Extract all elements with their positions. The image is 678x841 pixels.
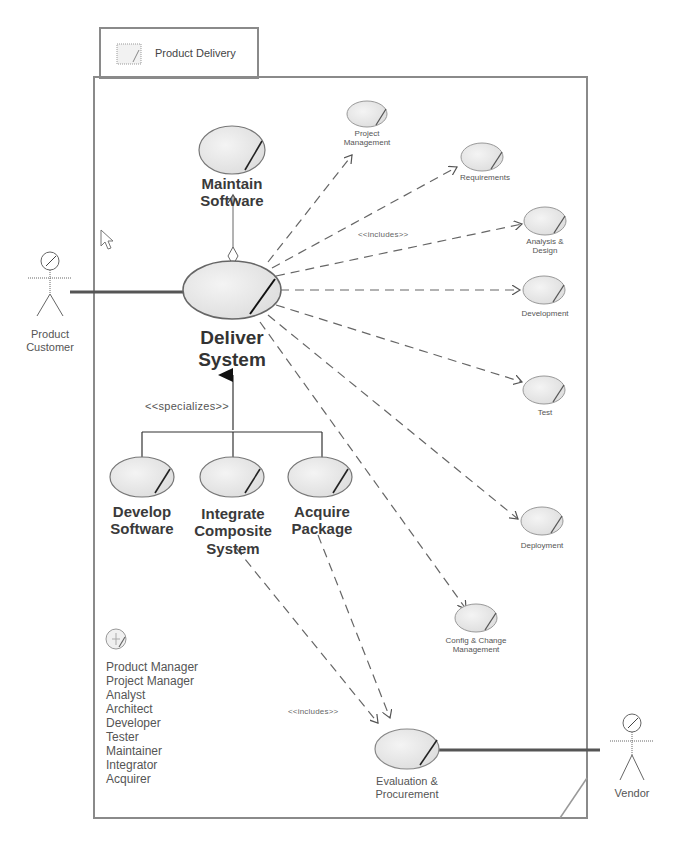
role-item: Product Manager xyxy=(106,660,198,674)
use-case-deployment-icon xyxy=(521,507,563,535)
label-line2: System xyxy=(182,349,282,371)
actor-label: Vendor xyxy=(602,787,662,800)
label-line2: Procurement xyxy=(362,788,452,801)
role-item: Analyst xyxy=(106,688,198,702)
label-line1: Evaluation & xyxy=(362,775,452,788)
role-item: Acquirer xyxy=(106,772,198,786)
use-case-development[interactable]: Development xyxy=(510,309,580,318)
label-line1: Project xyxy=(337,129,397,138)
use-case-acquire-package-icon xyxy=(288,457,352,497)
role-item: Project Manager xyxy=(106,674,198,688)
use-case-integrate-composite-system-icon xyxy=(200,457,264,497)
actor-product-customer[interactable]: Product Customer xyxy=(20,328,80,353)
use-case-evaluation-procurement[interactable]: Evaluation & Procurement xyxy=(362,775,452,800)
label-line2: Software xyxy=(182,192,282,209)
role-item: Integrator xyxy=(106,758,198,772)
use-case-acquire-package[interactable]: Acquire Package xyxy=(282,503,362,538)
use-case-integrate-composite-system[interactable]: Integrate Composite System xyxy=(188,505,278,557)
use-case-requirements[interactable]: Requirements xyxy=(450,173,520,182)
actor-vendor-icon xyxy=(610,714,654,780)
stereotype-includes-top: <<includes>> xyxy=(358,230,408,239)
use-case-analysis-design-icon xyxy=(524,207,566,235)
label-line2: Composite xyxy=(188,522,278,539)
use-case-maintain-software[interactable]: Maintain Software xyxy=(182,175,282,210)
actor-vendor[interactable]: Vendor xyxy=(602,787,662,800)
label-line1: Develop xyxy=(100,503,184,520)
use-case-development-icon xyxy=(523,276,565,304)
label-line1: Analysis & xyxy=(515,237,575,246)
use-case-config-change-management[interactable]: Config & Change Management xyxy=(436,636,516,654)
label-line1: Maintain xyxy=(182,175,282,192)
label-line2: Package xyxy=(282,520,362,537)
label-line1: Deliver xyxy=(182,327,282,349)
label-line1: Requirements xyxy=(450,173,520,182)
use-case-project-management-icon xyxy=(347,101,387,127)
role-item: Developer xyxy=(106,716,198,730)
label-line2: Management xyxy=(337,138,397,147)
use-case-requirements-icon xyxy=(461,143,503,171)
package-title: Product Delivery xyxy=(155,47,236,59)
label-line2: Design xyxy=(515,246,575,255)
label-line1: Development xyxy=(510,309,580,318)
role-item: Maintainer xyxy=(106,744,198,758)
use-case-maintain-software-icon xyxy=(199,126,265,174)
package-folder-icon xyxy=(117,44,141,64)
use-case-analysis-design[interactable]: Analysis & Design xyxy=(515,237,575,255)
stereotype-specializes: <<specializes>> xyxy=(145,400,229,413)
specialization-tree xyxy=(142,375,322,458)
use-case-develop-software[interactable]: Develop Software xyxy=(100,503,184,538)
mouse-cursor-icon xyxy=(101,230,113,249)
use-case-evaluation-procurement-icon xyxy=(375,729,439,769)
use-case-diagram-canvas xyxy=(0,0,678,841)
use-case-test-icon xyxy=(523,376,565,404)
label-line1: Test xyxy=(520,408,570,417)
label-line3: System xyxy=(188,540,278,557)
actor-label-line2: Customer xyxy=(20,341,80,354)
actor-product-customer-icon xyxy=(28,252,72,316)
actor-label-line1: Product xyxy=(20,328,80,341)
label-line2: Software xyxy=(100,520,184,537)
label-line1: Acquire xyxy=(282,503,362,520)
role-item: Architect xyxy=(106,702,198,716)
use-case-deliver-system-icon xyxy=(183,261,281,319)
label-line1: Config & Change xyxy=(436,636,516,645)
label-line2: Management xyxy=(436,645,516,654)
use-case-config-change-icon xyxy=(455,604,497,632)
stereotype-includes-bottom: <<includes>> xyxy=(288,707,338,716)
use-case-project-management[interactable]: Project Management xyxy=(337,129,397,147)
label-line1: Deployment xyxy=(507,541,577,550)
use-case-develop-software-icon xyxy=(110,457,174,497)
roles-list: Product Manager Project Manager Analyst … xyxy=(106,660,198,786)
use-case-test[interactable]: Test xyxy=(520,408,570,417)
use-case-deliver-system[interactable]: Deliver System xyxy=(182,327,282,371)
use-case-deployment[interactable]: Deployment xyxy=(507,541,577,550)
worker-role-icon xyxy=(106,629,126,649)
role-item: Tester xyxy=(106,730,198,744)
label-line1: Integrate xyxy=(188,505,278,522)
